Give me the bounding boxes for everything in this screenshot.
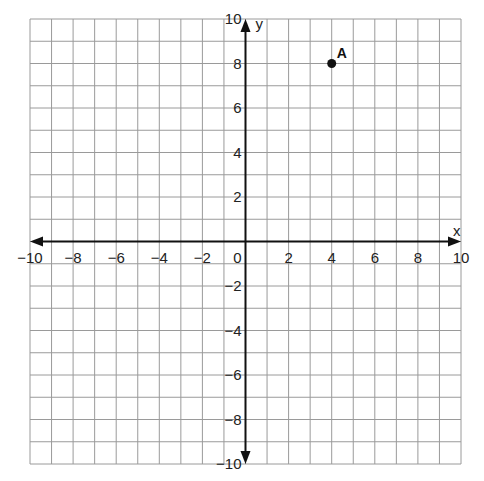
x-tick-label: 6	[371, 249, 379, 266]
y-tick-label: 2	[233, 188, 241, 205]
point-marker	[327, 59, 336, 68]
y-tick-label: −6	[224, 366, 241, 383]
point-label: A	[337, 45, 347, 61]
x-tick-label: −4	[151, 249, 168, 266]
x-tick-label: 10	[453, 249, 470, 266]
x-tick-label: 8	[414, 249, 422, 266]
x-tick-label: −6	[108, 249, 125, 266]
x-tick-label: 2	[284, 249, 292, 266]
y-axis-label: y	[256, 15, 264, 32]
y-tick-label: 8	[233, 55, 241, 72]
x-tick-label: −8	[65, 249, 82, 266]
y-axis-arrow-down-icon	[241, 451, 251, 464]
y-tick-label: −10	[216, 455, 241, 472]
x-axis-arrow-left-icon	[30, 237, 43, 247]
x-tick-label: 0	[233, 249, 241, 266]
x-tick-label: −10	[17, 249, 42, 266]
x-axis-label: x	[453, 222, 461, 239]
y-tick-label: −2	[224, 277, 241, 294]
y-tick-label: 10	[225, 10, 242, 27]
coordinate-plane: xy −10−8−6−4−20246810−10−8−6−4−2246810 A	[0, 0, 484, 481]
points: A	[327, 45, 347, 69]
y-tick-label: −8	[224, 411, 241, 428]
y-tick-label: 4	[233, 144, 241, 161]
x-tick-label: 4	[328, 249, 336, 266]
y-axis-arrow-up-icon	[241, 19, 251, 32]
y-tick-label: −4	[224, 322, 241, 339]
y-tick-label: 6	[233, 99, 241, 116]
x-tick-label: −2	[194, 249, 211, 266]
